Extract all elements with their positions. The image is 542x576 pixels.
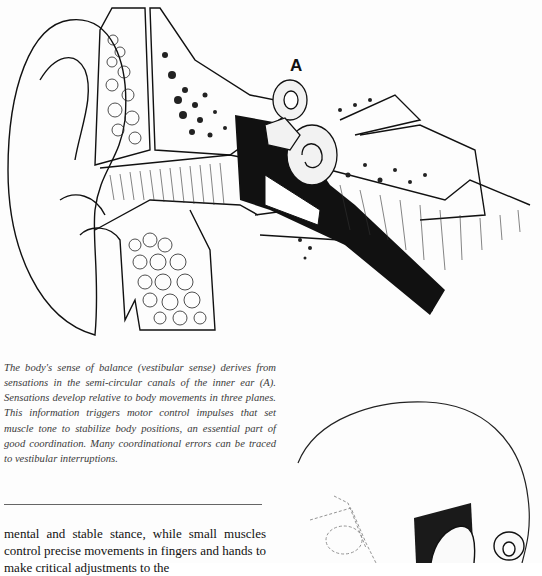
- head-profile-illustration: [296, 398, 542, 563]
- figure-caption: The body's sense of balance (vestibular …: [4, 360, 276, 467]
- ear-cross-section-illustration: [0, 0, 542, 380]
- body-paragraph: mental and stable stance, while small mu…: [4, 525, 266, 576]
- caption-divider: [4, 504, 262, 505]
- figure-label-a: A: [290, 56, 302, 76]
